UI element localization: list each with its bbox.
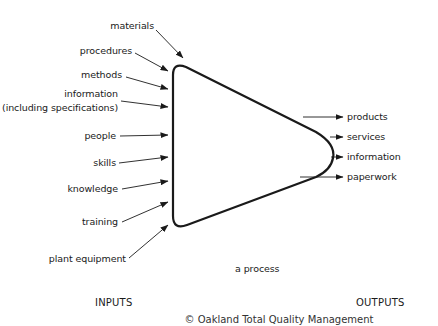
- arrow-procedures: [135, 53, 168, 71]
- input-label-plant-equipment: plant equipment: [49, 253, 126, 264]
- outputs-heading: OUTPUTS: [356, 297, 405, 308]
- arrow-knowledge: [122, 181, 168, 189]
- arrow-people: [120, 135, 168, 136]
- output-label-services: services: [347, 131, 385, 142]
- input-label-knowledge: knowledge: [67, 183, 118, 194]
- input-label-people: people: [84, 130, 116, 141]
- arrow-training: [122, 202, 168, 222]
- figure-caption: © Oakland Total Quality Management: [60, 314, 438, 326]
- output-label-paperwork: paperwork: [347, 171, 397, 182]
- arrow-materials: [156, 30, 183, 58]
- input-label-information: information: [64, 88, 118, 99]
- input-label-training: training: [82, 216, 118, 227]
- input-label-procedures: procedures: [80, 45, 132, 56]
- output-label-products: products: [347, 111, 388, 122]
- process-triangle: [173, 66, 333, 227]
- input-label-methods: methods: [81, 69, 122, 80]
- process-label: a process: [235, 263, 279, 274]
- input-label-materials: materials: [110, 20, 154, 31]
- output-label-information: information: [347, 151, 401, 162]
- input-label-including-specifications: (including specifications): [2, 102, 118, 113]
- arrow-methods: [126, 77, 168, 89]
- inputs-heading: INPUTS: [95, 297, 132, 308]
- arrow-information: [121, 101, 168, 107]
- arrow-plant-equipment: [129, 225, 168, 258]
- arrow-skills: [119, 157, 168, 163]
- input-label-skills: skills: [93, 157, 116, 168]
